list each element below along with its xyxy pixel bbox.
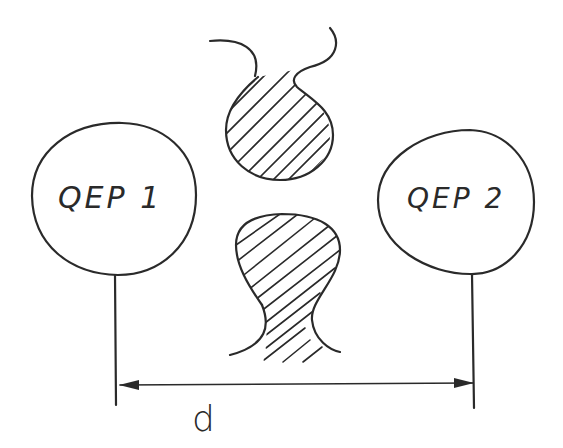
arrowhead-right-icon (454, 378, 474, 388)
qep2-node (378, 130, 534, 408)
distance-label: d (192, 398, 215, 439)
diagram-drawing (0, 0, 563, 448)
qep1-node (32, 123, 196, 405)
upper-obstacle (210, 28, 345, 188)
diagram-canvas: QEP 1 QEP 2 d (0, 0, 563, 448)
arrowhead-left-icon (119, 380, 139, 390)
qep2-label: QEP 2 (407, 182, 505, 215)
lower-obstacle (230, 214, 340, 362)
qep1-label: QEP 1 (58, 180, 162, 215)
distance-dimension (119, 378, 474, 390)
